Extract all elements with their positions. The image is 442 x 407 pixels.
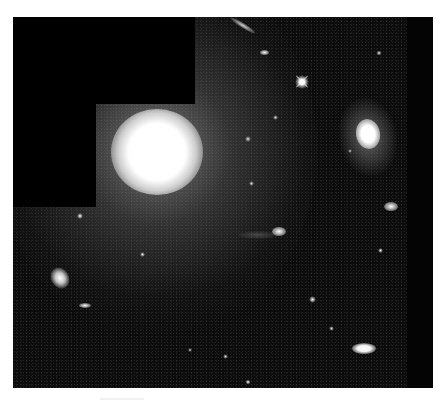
point-source <box>188 348 192 352</box>
galaxy-right-edge <box>384 202 398 211</box>
small-elongated-galaxy <box>79 303 91 308</box>
point-source <box>249 181 254 186</box>
elliptical-galaxy-core <box>111 109 203 195</box>
point-source <box>348 149 352 153</box>
masked-region-top <box>13 17 195 104</box>
dark-edge-strip <box>407 17 433 388</box>
point-source <box>77 213 83 219</box>
point-source <box>309 296 316 303</box>
galaxy-cluster-photo <box>13 17 433 388</box>
small-galaxy <box>260 50 269 55</box>
point-source <box>378 248 383 253</box>
point-source <box>245 136 251 142</box>
galaxy-bottom-right <box>352 343 376 354</box>
point-source <box>245 380 251 384</box>
masked-region-left <box>13 104 96 207</box>
faint-mark <box>100 398 144 400</box>
point-source <box>140 252 145 257</box>
point-source <box>329 326 334 331</box>
point-source <box>223 354 228 359</box>
point-source <box>273 115 278 120</box>
faint-tidal-tail <box>238 231 278 239</box>
point-source <box>376 51 382 55</box>
